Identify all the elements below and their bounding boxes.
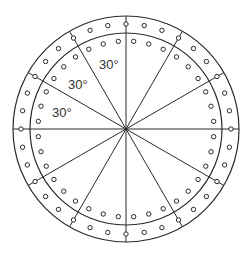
hole [227,145,231,149]
hole [222,163,226,167]
hole [174,199,178,203]
hole [73,55,77,59]
hole [196,177,200,181]
hole [124,232,128,236]
hole [142,23,146,27]
hole [191,207,195,211]
angle-label-top: 30° [99,58,119,71]
spoke-line [28,129,126,186]
hole [52,177,56,181]
hole [176,218,180,222]
hole [88,225,92,229]
hole [44,164,48,168]
hole [39,104,43,108]
hole [116,39,120,43]
spoke-line [126,129,224,186]
hole [52,76,56,80]
hole [106,23,110,27]
hole [106,230,110,234]
hole [160,28,164,32]
spoke-line [126,129,183,227]
hole [62,189,66,193]
hole [33,74,37,78]
hole [204,59,208,63]
hole [131,39,135,43]
spokes [13,16,239,242]
hole [204,194,208,198]
hole [209,150,213,154]
hole [20,109,24,113]
spoke-line [70,129,127,227]
hole [56,46,60,50]
hole [204,90,208,94]
angle-label-middle: 30° [68,78,88,91]
hole [101,212,105,216]
hole [25,163,29,167]
hole [87,207,91,211]
hole [43,59,47,63]
spoke-line [126,31,183,129]
hole [174,55,178,59]
hole [142,230,146,234]
hole [43,194,47,198]
hole [147,42,151,46]
hole [229,127,233,131]
hole [124,22,128,26]
hole [20,145,24,149]
hole [25,91,29,95]
hole [101,42,105,46]
hole [211,119,215,123]
hole [161,47,165,51]
hole [209,104,213,108]
hole [71,218,75,222]
hole [227,109,231,113]
hole [56,207,60,211]
hole [36,134,40,138]
hole [161,207,165,211]
hole [191,46,195,50]
hole [62,65,66,69]
spoke-line [126,73,224,130]
hole [222,91,226,95]
hole [211,134,215,138]
hole [160,225,164,229]
hole [131,214,135,218]
angle-label-bottom: 30° [52,106,72,119]
hole [147,212,151,216]
hole [88,28,92,32]
hole [33,179,37,183]
hole [176,36,180,40]
hole [71,36,75,40]
hole [19,127,23,131]
hole [204,164,208,168]
hole [186,189,190,193]
hole [215,74,219,78]
hole [215,179,219,183]
hole [73,199,77,203]
hole [39,150,43,154]
hole [36,119,40,123]
hole [186,65,190,69]
hole [87,47,91,51]
hole [116,214,120,218]
hole [196,76,200,80]
hole [44,90,48,94]
hole-pattern-diagram [0,0,250,256]
